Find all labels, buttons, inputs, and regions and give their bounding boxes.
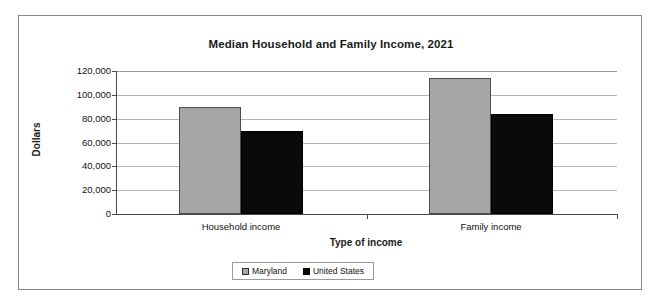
gridline	[117, 95, 617, 96]
y-axis-tick	[112, 166, 117, 167]
legend-label: Maryland	[252, 266, 287, 276]
legend-label: United States	[313, 266, 364, 276]
bar-maryland-household[interactable]	[179, 107, 241, 214]
x-axis-tick	[617, 214, 618, 219]
x-axis-category-label: Household income	[161, 221, 321, 232]
x-axis-category-label: Family income	[411, 221, 571, 232]
legend-item-united-states[interactable]: United States	[303, 266, 364, 276]
y-axis-tick-label: 80,000	[41, 113, 111, 124]
y-axis-tick-label: 20,000	[41, 184, 111, 195]
y-axis-title: Dollars	[31, 100, 42, 180]
y-axis-tick-label: 120,000	[41, 65, 111, 76]
y-axis-tick	[112, 214, 117, 215]
legend-swatch-icon	[303, 268, 310, 275]
legend-item-maryland[interactable]: Maryland	[242, 266, 287, 276]
bar-maryland-family[interactable]	[429, 78, 491, 214]
legend-swatch-icon	[242, 268, 249, 275]
y-axis-tick-label: 0	[41, 208, 111, 219]
y-axis-tick	[112, 190, 117, 191]
y-axis-tick-label: 60,000	[41, 137, 111, 148]
gridline	[117, 71, 617, 72]
chart-legend: Maryland United States	[232, 262, 374, 280]
bar-united-states-household[interactable]	[241, 131, 303, 214]
y-axis-tick-label: 100,000	[41, 89, 111, 100]
y-axis-tick	[112, 71, 117, 72]
x-axis-tick	[367, 214, 368, 219]
y-axis-tick	[112, 143, 117, 144]
plot-area: 120,000 100,000 80,000 60,000 40,000 20,…	[116, 71, 617, 215]
y-axis-tick-label: 40,000	[41, 160, 111, 171]
y-axis-tick	[112, 95, 117, 96]
chart-figure: Median Household and Family Income, 2021…	[18, 15, 642, 290]
bar-united-states-family[interactable]	[491, 114, 553, 214]
y-axis-tick	[112, 119, 117, 120]
chart-title: Median Household and Family Income, 2021	[19, 38, 643, 50]
x-axis-title: Type of income	[116, 237, 616, 248]
